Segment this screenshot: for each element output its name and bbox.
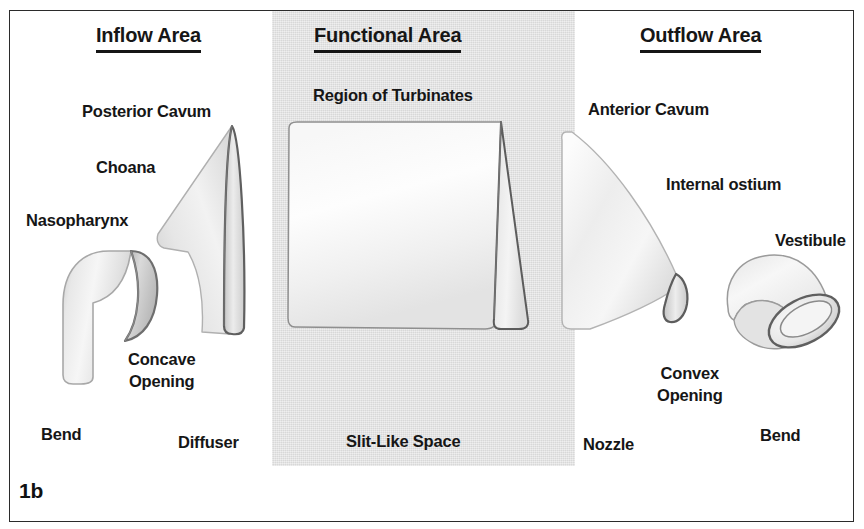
label-anterior-cavum: Anterior Cavum: [588, 98, 709, 120]
label-choana: Choana: [96, 156, 155, 178]
label-posterior-cavum: Posterior Cavum: [82, 100, 211, 122]
label-diffuser: Diffuser: [178, 431, 239, 453]
heading-outflow-area: Outflow Area: [640, 24, 761, 53]
heading-functional-area: Functional Area: [314, 24, 461, 53]
label-nasopharynx: Nasopharynx: [26, 209, 128, 231]
nozzle-wedge-shape: [556, 124, 704, 336]
label-region-of-turbinates: Region of Turbinates: [313, 84, 473, 106]
diffuser-wedge-shape: [146, 122, 266, 340]
slit-like-slab-shape: [283, 118, 539, 340]
label-convex-opening-line2: Opening: [657, 384, 723, 406]
label-nozzle: Nozzle: [583, 433, 634, 455]
label-convex-opening: Convex Opening: [657, 362, 723, 406]
label-convex-opening-line1: Convex: [657, 362, 723, 384]
label-internal-ostium: Internal ostium: [666, 173, 781, 195]
figure-1b: Inflow Area Functional Area Outflow Area…: [0, 0, 864, 529]
label-concave-opening-line2: Opening: [128, 370, 195, 392]
label-vestibule: Vestibule: [775, 229, 846, 251]
heading-inflow-area: Inflow Area: [96, 24, 201, 53]
label-bend-right: Bend: [760, 424, 800, 446]
bend-elbow-right-shape: [718, 246, 852, 364]
label-slit-like-space: Slit-Like Space: [346, 430, 460, 452]
label-concave-opening: Concave Opening: [128, 348, 195, 392]
label-concave-opening-line1: Concave: [128, 348, 195, 370]
figure-number-label: 1b: [19, 479, 43, 503]
label-bend-left: Bend: [41, 423, 81, 445]
